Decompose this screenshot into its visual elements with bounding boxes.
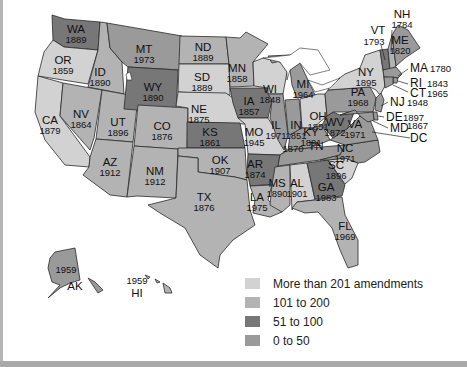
legend-label: 101 to 200 [273, 296, 330, 310]
state-year: 1870 [282, 143, 303, 154]
state-year: 1864 [70, 119, 91, 130]
state-year: 1875 [188, 114, 209, 125]
state-year: 1971 [265, 130, 286, 141]
state-abbr: MA [410, 61, 428, 75]
legend: More than 201 amendments 101 to 200 51 t… [245, 274, 423, 350]
state-year: 1969 [334, 231, 355, 242]
state-ri [393, 77, 398, 83]
state-year: 1895 [355, 77, 376, 88]
state-abbr: DC [410, 131, 428, 145]
state-year: 1861 [199, 137, 220, 148]
state-year: 1896 [107, 127, 128, 138]
legend-swatch-more-than-201 [245, 278, 260, 289]
legend-label: 51 to 100 [273, 315, 323, 329]
state-year: 1876 [151, 131, 172, 142]
state-year: 1983 [315, 192, 336, 203]
state-year: 1948 [407, 97, 428, 108]
state-year: 1971 [344, 129, 365, 140]
state-year: 1858 [226, 73, 247, 84]
legend-item: More than 201 amendments [245, 274, 423, 293]
state-year: 1876 [193, 202, 214, 213]
legend-item: 101 to 200 [245, 293, 423, 312]
state-year: 1912 [99, 167, 120, 178]
state-abbr: AK [67, 280, 83, 292]
state-year: 1890 [266, 188, 287, 199]
state-year: 1874 [244, 169, 265, 180]
state-ct [384, 77, 393, 88]
state-year: 1907 [209, 165, 230, 176]
legend-swatch-51-to-100 [245, 316, 260, 327]
state-abbr: HI [131, 287, 143, 299]
state-year: 1867 [407, 120, 428, 131]
state-year: 1968 [347, 97, 368, 108]
legend-swatch-101-to-200 [245, 297, 260, 308]
state-year: 1896 [325, 170, 346, 181]
legend-item: 51 to 100 [245, 312, 423, 331]
state-year: 1879 [39, 125, 60, 136]
legend-item: 0 to 50 [245, 331, 423, 350]
legend-label: More than 201 amendments [273, 277, 423, 291]
state-year: 1973 [133, 54, 154, 65]
state-year: 1889 [192, 52, 213, 63]
state-abbr: TN [308, 140, 323, 152]
state-year: 1959 [55, 264, 76, 275]
state-year: 1964 [292, 89, 313, 100]
state-year: 1784 [391, 19, 412, 30]
state-year: 1890 [142, 92, 163, 103]
legend-label: 0 to 50 [273, 334, 310, 348]
legend-swatch-0-to-50 [245, 335, 260, 346]
state-year: 1959 [126, 275, 147, 286]
state-nj [375, 93, 384, 112]
state-hi [145, 275, 172, 293]
state-year: 1859 [52, 65, 73, 76]
state-year: 1820 [389, 45, 410, 56]
state-year: 1975 [246, 202, 267, 213]
state-year: 1857 [238, 106, 259, 117]
state-year: 1901 [286, 188, 307, 199]
state-year: 1889 [65, 34, 86, 45]
state-year: 1965 [427, 88, 448, 99]
state-year: 1890 [89, 77, 110, 88]
state-year: 1945 [243, 137, 264, 148]
state-abbr: NJ [390, 95, 405, 109]
state-year: 1848 [259, 94, 280, 105]
state-abbr: VT [371, 24, 386, 36]
state-year: 1971 [334, 153, 355, 164]
state-year: 1780 [430, 63, 451, 74]
state-year: 1889 [191, 82, 212, 93]
state-year: 1912 [144, 176, 165, 187]
state-year: 1872 [324, 127, 345, 138]
